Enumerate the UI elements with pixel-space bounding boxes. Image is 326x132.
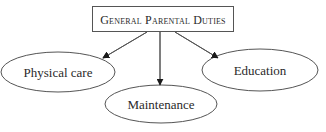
arrow-overlay-education xyxy=(175,32,218,58)
maintenance-label: Maintenance xyxy=(127,97,194,112)
child-node-maintenance: Maintenance xyxy=(105,85,217,123)
child-node-physical-care: Physical care xyxy=(1,52,115,92)
child-node-education: Education xyxy=(202,49,318,91)
root-node: General Parental Duties xyxy=(93,7,234,32)
diagram-canvas: General Parental Duties Physical care Ma… xyxy=(0,0,326,132)
physical-care-label: Physical care xyxy=(24,65,93,80)
education-label: Education xyxy=(234,63,287,78)
arrow-overlay-physical-care xyxy=(103,32,147,58)
root-node-label: General Parental Duties xyxy=(100,13,226,27)
